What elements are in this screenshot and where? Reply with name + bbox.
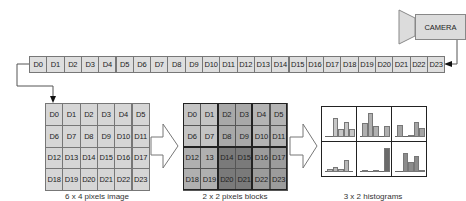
histogram-bar (419, 170, 425, 173)
pixel-block-outline (252, 147, 287, 191)
image-pixel-cell: D18 (45, 168, 63, 191)
image-pixel-cell: D16 (114, 147, 132, 170)
pixel-block-outline (252, 103, 287, 147)
histogram-bar (384, 126, 390, 137)
image-pixel-cell: D5 (132, 103, 150, 126)
pixel-block-outline (218, 147, 253, 191)
histogram-cell (356, 141, 392, 177)
histogram-bar (362, 170, 368, 173)
strip-cell: D0 (29, 56, 47, 73)
image-pixel-cell: D21 (97, 168, 115, 191)
strip-cell: D16 (306, 56, 324, 73)
strip-cell: D17 (323, 56, 341, 73)
strip-cell: D18 (340, 56, 358, 73)
strip-cell: D22 (410, 56, 428, 73)
strip-cell: D11 (219, 56, 237, 73)
strip-cell: D21 (392, 56, 410, 73)
histogram-bar (349, 129, 355, 137)
right-arrow-icon (151, 124, 178, 168)
strip-cell: D14 (271, 56, 289, 73)
image-pixel-cell: D12 (45, 147, 63, 170)
strip-cell: D2 (64, 56, 82, 73)
histogram-bar (397, 125, 403, 138)
image-pixel-cell: D1 (62, 103, 80, 126)
strip-cell: D5 (116, 56, 134, 73)
strip-cell: D13 (254, 56, 272, 73)
histogram-bar (373, 126, 379, 137)
image-pixel-cell: D14 (80, 147, 98, 170)
image-pixel-cell: D7 (62, 125, 80, 148)
image-pixel-cell: D3 (97, 103, 115, 126)
histogram-bar (373, 170, 379, 173)
image-pixel-cell: D8 (80, 125, 98, 148)
image-pixel-cell: D0 (45, 103, 63, 126)
strip-cell: D15 (289, 56, 307, 73)
strip-cell: D20 (375, 56, 393, 73)
histogram-cell (321, 106, 357, 142)
strip-cell: D10 (202, 56, 220, 73)
image-pixel-cell: D6 (45, 125, 63, 148)
strip-cell: D7 (150, 56, 168, 73)
camera-box: CAMERA (415, 14, 466, 40)
image-pixel-cell: D22 (114, 168, 132, 191)
strip-cell: D23 (427, 56, 445, 73)
image-pixel-cell: D10 (114, 125, 132, 148)
blocks-grid-caption: 2 x 2 pixels blocks (180, 192, 290, 201)
image-pixel-cell: D20 (80, 168, 98, 191)
image-pixel-cell: D11 (132, 125, 150, 148)
histogram-cell (391, 106, 427, 142)
histogram-bar (419, 128, 425, 137)
image-pixel-cell: D23 (132, 168, 150, 191)
strip-cell: D4 (98, 56, 116, 73)
image-pixel-cell: D2 (80, 103, 98, 126)
histograms-caption: 3 x 2 histograms (318, 192, 428, 201)
strip-cell: D8 (167, 56, 185, 73)
strip-cell: D1 (46, 56, 64, 73)
strip-cell: D6 (133, 56, 151, 73)
pixel-block-outline (183, 147, 218, 191)
camera-label: CAMERA (424, 23, 456, 32)
image-grid-caption: 6 x 4 pixels image (45, 192, 149, 201)
strip-cell: D12 (237, 56, 255, 73)
histogram-cell (356, 106, 392, 142)
strip-cell: D9 (185, 56, 203, 73)
camera-lens-icon (399, 10, 415, 44)
histogram-bar (384, 148, 390, 172)
pixel-block-outline (183, 103, 218, 147)
image-pixel-cell: D17 (132, 147, 150, 170)
image-pixel-cell: D15 (97, 147, 115, 170)
strip-cell: D19 (358, 56, 376, 73)
strip-cell: D3 (81, 56, 99, 73)
image-pixel-cell: D4 (114, 103, 132, 126)
right-arrow-icon (290, 124, 317, 168)
image-pixel-cell: D13 (62, 147, 80, 170)
arrow-head-icon (50, 96, 56, 103)
image-pixel-cell: D9 (97, 125, 115, 148)
histogram-cell (321, 141, 357, 177)
image-pixel-cell: D19 (62, 168, 80, 191)
arrow-head-icon (444, 61, 452, 67)
histogram-bar (344, 160, 350, 173)
histogram-cell (391, 141, 427, 177)
pixel-block-outline (218, 103, 253, 147)
